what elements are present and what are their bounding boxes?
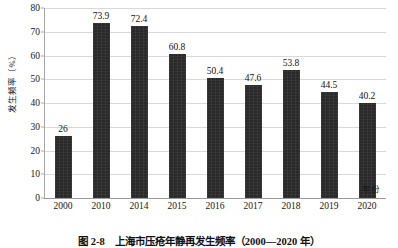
- bar-value-label: 44.5: [321, 80, 338, 90]
- figure-caption: 图 2-8 上海市压疮年静再发生频率（2000—2020 年）: [0, 233, 398, 248]
- x-tick-label: 2016: [196, 201, 234, 215]
- bar[interactable]: [321, 92, 338, 198]
- bar-value-label: 73.9: [93, 11, 110, 21]
- x-axis-title: 年份: [362, 182, 380, 194]
- y-tick-label: 40: [31, 98, 41, 108]
- x-tick-label: 2020: [348, 201, 386, 215]
- bar-slot: 73.9: [82, 8, 120, 198]
- x-tick-label: 2010: [82, 201, 120, 215]
- bar-value-label: 72.4: [131, 14, 148, 24]
- bar-slot: 44.5: [310, 8, 348, 198]
- bar-slot: 53.8: [272, 8, 310, 198]
- bar-value-label: 60.8: [169, 42, 186, 52]
- gridline: [44, 198, 386, 199]
- plot-inner: 01020304050607080 2673.972.460.850.447.6…: [44, 8, 386, 198]
- bar[interactable]: [93, 23, 110, 199]
- bar-series: 2673.972.460.850.447.653.844.540.2: [44, 8, 386, 198]
- y-tick-label: 20: [31, 146, 41, 156]
- bar-slot: 40.2: [348, 8, 386, 198]
- bar-slot: 47.6: [234, 8, 272, 198]
- bar[interactable]: [207, 78, 224, 198]
- bar-value-label: 53.8: [283, 58, 300, 68]
- x-axis-tick-labels: 200020102014201520162017201820192020: [44, 201, 386, 215]
- bar-value-label: 50.4: [207, 66, 224, 76]
- bar-slot: 60.8: [158, 8, 196, 198]
- x-tick-label: 2017: [234, 201, 272, 215]
- x-tick-label: 2000: [44, 201, 82, 215]
- bar-slot: 50.4: [196, 8, 234, 198]
- bar-value-label: 26: [58, 124, 68, 134]
- plot-area: 01020304050607080 2673.972.460.850.447.6…: [44, 8, 386, 198]
- x-tick-label: 2015: [158, 201, 196, 215]
- y-tick-label: 70: [31, 27, 41, 37]
- y-tick-label: 80: [31, 3, 41, 13]
- bar-slot: 72.4: [120, 8, 158, 198]
- y-axis-title: 发生频率（%）: [5, 44, 17, 120]
- bar[interactable]: [131, 26, 148, 198]
- y-tick-label: 60: [31, 51, 41, 61]
- bar[interactable]: [55, 136, 72, 198]
- bar[interactable]: [283, 70, 300, 198]
- x-tick-label: 2018: [272, 201, 310, 215]
- y-tick-label: 0: [35, 193, 40, 203]
- y-tick-label: 50: [31, 74, 41, 84]
- bar-value-label: 40.2: [359, 91, 376, 101]
- bar-value-label: 47.6: [245, 73, 262, 83]
- y-tick-label: 10: [31, 169, 41, 179]
- bar-slot: 26: [44, 8, 82, 198]
- x-tick-label: 2014: [120, 201, 158, 215]
- bar[interactable]: [245, 85, 262, 198]
- y-tick-label: 30: [31, 122, 41, 132]
- bar[interactable]: [169, 54, 186, 198]
- x-tick-label: 2019: [310, 201, 348, 215]
